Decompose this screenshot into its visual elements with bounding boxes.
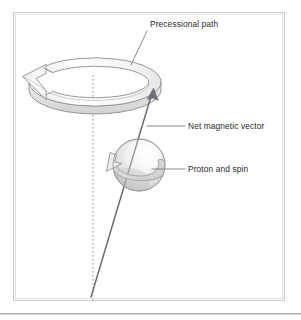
precession-diagram: Precessional path Net magnetic vector Pr… <box>0 0 301 320</box>
bottom-rule <box>0 313 301 315</box>
label-proton-and-spin: Proton and spin <box>188 164 248 174</box>
label-net-magnetic-vector: Net magnetic vector <box>188 121 264 131</box>
label-precessional-path: Precessional path <box>150 19 219 29</box>
figure-root: Precessional path Net magnetic vector Pr… <box>0 0 301 320</box>
